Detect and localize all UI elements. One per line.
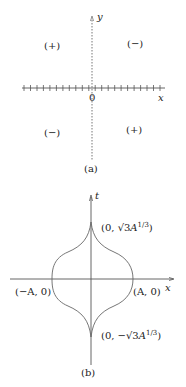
quadrant-lower-left: (−) — [44, 127, 60, 138]
quadrant-upper-left: (+) — [44, 40, 60, 51]
quadrant-lower-right: (+) — [126, 124, 142, 135]
point-label-right: (A, 0) — [133, 286, 161, 297]
figure-canvas: y 0 x (+) (−) (−) (+) (a) t x (0, √3A1/3… — [0, 0, 186, 387]
figure-b: t x (0, √3A1/3) (0, −√3A1/3) (−A, 0) (A,… — [10, 190, 174, 378]
caption-a: (a) — [84, 163, 98, 174]
figure-a: y 0 x (+) (−) (−) (+) (a) — [22, 11, 165, 174]
point-label-top: (0, √3A1/3) — [101, 221, 153, 233]
cusp-curve — [52, 222, 133, 337]
y-axis-label: y — [96, 11, 103, 22]
x-axis-label: x — [165, 282, 171, 293]
caption-b: (b) — [81, 367, 95, 378]
point-label-left: (−A, 0) — [15, 286, 51, 297]
t-axis-label: t — [95, 190, 100, 201]
x-axis-label: x — [158, 92, 164, 103]
point-label-bottom: (0, −√3A1/3) — [101, 329, 161, 341]
quadrant-upper-right: (−) — [127, 38, 143, 49]
origin-label: 0 — [89, 92, 95, 103]
